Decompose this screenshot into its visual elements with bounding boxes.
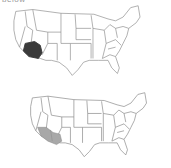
us-map-top — [2, 2, 167, 82]
us-map-bottom — [22, 86, 169, 166]
